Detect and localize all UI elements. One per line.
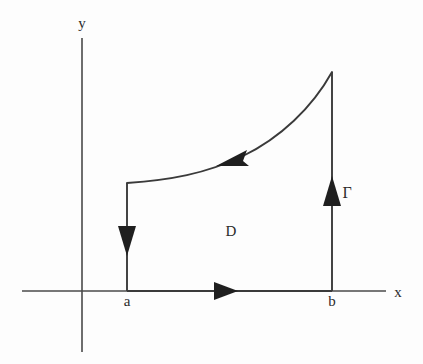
x-axis-arrow-icon — [214, 282, 238, 300]
contour-label-gamma: Γ — [342, 184, 351, 201]
right-edge-arrow-icon — [323, 176, 341, 206]
tick-label-a: a — [124, 293, 131, 309]
geometry-diagram: x y a b D Γ — [0, 0, 423, 364]
figure-canvas: x y a b D Γ — [0, 0, 423, 364]
tick-label-b: b — [328, 293, 336, 309]
curve-arrow-icon — [216, 150, 249, 166]
region-label-d: D — [226, 223, 237, 239]
contour-top-curve — [127, 72, 332, 183]
x-axis-label: x — [394, 284, 402, 300]
y-axis-label: y — [78, 15, 86, 31]
left-edge-arrow-icon — [118, 226, 136, 256]
